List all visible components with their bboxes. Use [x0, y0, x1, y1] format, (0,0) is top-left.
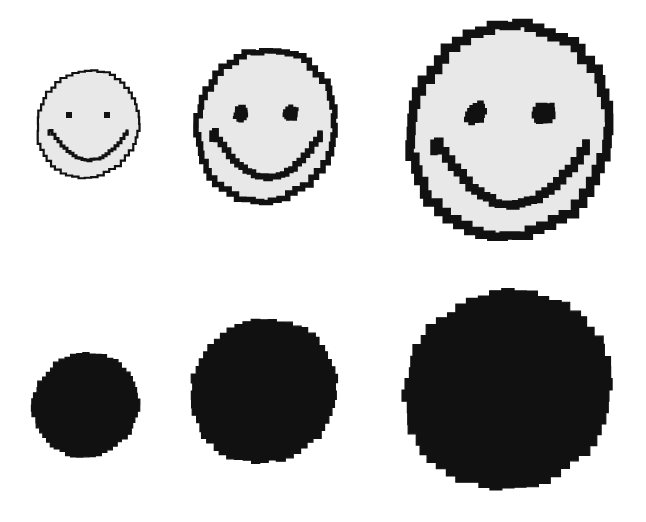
right-mouth-tick [317, 130, 323, 142]
solid-circle-medium [188, 316, 340, 466]
solid-circle-small [30, 350, 142, 460]
solid-circle-large [401, 288, 615, 492]
filled-disc [402, 288, 612, 490]
figure-canvas [0, 0, 646, 522]
right-eye [284, 106, 298, 120]
right-eye [533, 104, 554, 122]
left-mouth-tick [209, 130, 215, 142]
filled-disc [191, 319, 337, 463]
smiley-face-large [403, 18, 617, 244]
left-eye [66, 112, 72, 118]
left-mouth-tick [48, 129, 51, 135]
right-mouth-tick [582, 140, 590, 156]
smiley-face-small [33, 66, 143, 182]
left-mouth-tick [430, 140, 438, 156]
smiley-face-medium [191, 44, 341, 207]
right-eye [104, 112, 110, 118]
filled-disc [31, 352, 139, 457]
right-mouth-tick [126, 129, 129, 135]
